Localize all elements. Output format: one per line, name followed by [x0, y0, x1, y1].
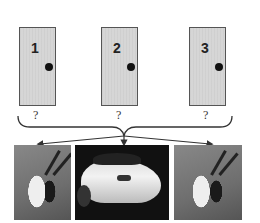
goat-photo-right [174, 145, 242, 220]
car-photo [75, 145, 169, 220]
goat-photo-left [14, 145, 71, 220]
arrow-left [40, 136, 124, 144]
arrow-right [124, 136, 210, 144]
curly-brace [18, 116, 232, 136]
